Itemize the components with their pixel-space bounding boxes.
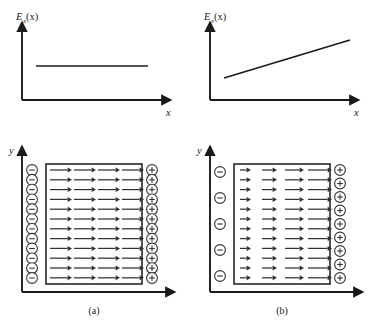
field-a-arrow-r9-c1-head (92, 256, 96, 261)
field-b-arrow-r10-c0-head (247, 266, 251, 271)
field-a-y-label: y (8, 145, 14, 156)
graph-a-svg: E x (x) x (0, 0, 188, 122)
field-b-arrow-r7-c1-head (273, 236, 277, 241)
field-a-arrow-r0-c2-head (116, 168, 120, 173)
field-a-arrow-r3-c2-head (116, 197, 120, 202)
field-b-arrow-r11-c2-head (300, 275, 304, 280)
field-b-arrow-r0-c0-head (247, 168, 251, 173)
field-a-arrow-r8-c0-head (68, 246, 72, 251)
field-a-arrow-r3-c0-head (68, 197, 72, 202)
field-a-arrow-grid (50, 168, 144, 281)
field-b-arrow-r3-c2-head (300, 197, 304, 202)
field-b-arrow-r0-c2-head (300, 168, 304, 173)
field-b-arrow-r7-c0-head (247, 236, 251, 241)
field-a-arrow-r10-c1-head (92, 266, 96, 271)
field-a-arrow-r11-c2-head (116, 275, 120, 280)
field-a-arrow-r1-c2-head (116, 177, 120, 182)
field-a-arrow-r6-c2-head (116, 226, 120, 231)
field-a-arrow-r4-c0-head (68, 207, 72, 212)
field-a-svg: y (a) (0, 122, 188, 323)
field-b-arrow-r8-c2-head (300, 246, 304, 251)
field-a-arrow-r4-c1-head (92, 207, 96, 212)
field-a-arrow-r5-c0-head (68, 217, 72, 222)
graph-a-y-label-arg: (x) (26, 11, 39, 23)
field-b-arrow-r1-c2-head (300, 177, 304, 182)
field-a-region-box (46, 164, 142, 284)
field-b-arrow-r11-c0-head (247, 275, 251, 280)
field-b-arrow-r4-c2-head (300, 207, 304, 212)
field-b-svg: y (b) (188, 122, 376, 323)
field-a-arrow-r7-c0-head (68, 236, 72, 241)
graph-b-svg: E x (x) x (188, 0, 376, 122)
field-b-arrow-r1-c0-head (247, 177, 251, 182)
field-b-negative-charges (215, 167, 226, 282)
field-a-arrow-r5-c1-head (92, 217, 96, 222)
field-a-arrow-r6-c1-head (92, 226, 96, 231)
field-b-caption: (b) (276, 305, 288, 317)
field-a-arrow-r2-c0-head (68, 187, 72, 192)
field-b-arrow-r8-c1-head (273, 246, 277, 251)
field-a-arrow-r2-c1-head (92, 187, 96, 192)
field-b-arrow-r3-c0-head (247, 197, 251, 202)
field-panel-uniform: y (a) (0, 122, 188, 323)
field-a-positive-charges (147, 165, 158, 284)
field-a-arrow-r5-c2-head (116, 217, 120, 222)
field-b-arrow-r2-c1-head (273, 187, 277, 192)
field-b-region-box (234, 164, 330, 284)
field-a-arrow-r11-c1-head (92, 275, 96, 280)
graph-a-x-label: x (165, 107, 171, 118)
field-b-arrow-grid (240, 168, 332, 281)
field-a-arrow-r6-c0-head (68, 226, 72, 231)
graph-b-y-label-arg: (x) (214, 11, 227, 23)
field-a-arrow-r7-c2-head (116, 236, 120, 241)
graph-b-curve (224, 40, 350, 78)
field-b-arrow-r10-c1-head (273, 266, 277, 271)
field-b-arrow-r3-c1-head (273, 197, 277, 202)
graph-a-y-label-base: E (15, 11, 23, 22)
field-a-arrow-r8-c2-head (116, 246, 120, 251)
field-b-arrow-r10-c2-head (300, 266, 304, 271)
field-a-arrow-r9-c0-head (68, 256, 72, 261)
field-b-arrow-r11-c1-head (273, 275, 277, 280)
field-b-arrow-r6-c2-head (300, 226, 304, 231)
field-a-arrow-r11-c0-head (68, 275, 72, 280)
field-b-arrow-r9-c1-head (273, 256, 277, 261)
field-b-arrow-r5-c1-head (273, 217, 277, 222)
field-b-arrow-r4-c0-head (247, 207, 251, 212)
field-a-arrow-r10-c2-head (116, 266, 120, 271)
field-a-arrow-r1-c0-head (68, 177, 72, 182)
field-a-arrow-r10-c0-head (68, 266, 72, 271)
field-b-positive-charges (335, 165, 346, 284)
field-a-arrow-r3-c1-head (92, 197, 96, 202)
field-b-arrow-r1-c1-head (273, 177, 277, 182)
field-b-arrow-r8-c0-head (247, 246, 251, 251)
field-b-y-label: y (196, 145, 202, 156)
field-a-arrow-r2-c2-head (116, 187, 120, 192)
field-b-arrow-r0-c1-head (273, 168, 277, 173)
field-b-arrow-r5-c2-head (300, 217, 304, 222)
field-a-arrow-r4-c2-head (116, 207, 120, 212)
field-a-arrow-r9-c2-head (116, 256, 120, 261)
field-b-arrow-r5-c0-head (247, 217, 251, 222)
field-a-caption: (a) (88, 305, 99, 317)
field-b-arrow-r6-c0-head (247, 226, 251, 231)
field-a-arrow-r8-c1-head (92, 246, 96, 251)
field-a-arrow-r7-c1-head (92, 236, 96, 241)
field-b-arrow-r9-c2-head (300, 256, 304, 261)
field-panel-nonuniform: y (b) (188, 122, 376, 323)
graph-b-x-label: x (353, 107, 359, 118)
field-a-arrow-r0-c1-head (92, 168, 96, 173)
graph-panel-nonuniform: E x (x) x (188, 0, 376, 122)
field-a-arrow-r1-c1-head (92, 177, 96, 182)
field-b-arrow-r6-c1-head (273, 226, 277, 231)
field-b-arrow-r2-c0-head (247, 187, 251, 192)
field-b-arrow-r7-c2-head (300, 236, 304, 241)
field-b-arrow-r9-c0-head (247, 256, 251, 261)
field-b-arrow-r2-c2-head (300, 187, 304, 192)
graph-panel-uniform: E x (x) x (0, 0, 188, 122)
field-b-arrow-r4-c1-head (273, 207, 277, 212)
graph-b-y-label-base: E (203, 11, 211, 22)
field-a-negative-charges (27, 165, 38, 284)
figure-root: E x (x) x E x (x) x y (0, 0, 376, 323)
field-a-arrow-r0-c0-head (68, 168, 72, 173)
